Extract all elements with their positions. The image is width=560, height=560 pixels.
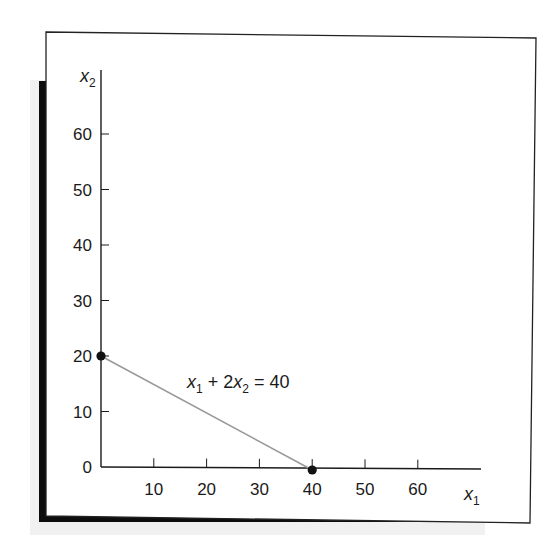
frame-shadow-left — [39, 81, 46, 522]
y-tick-label: 20 — [73, 347, 92, 366]
x-tick-label: 40 — [303, 480, 322, 499]
x-tick-label: 60 — [408, 480, 427, 499]
data-point-marker — [308, 465, 317, 474]
y-tick-label: 60 — [73, 125, 92, 144]
data-point-marker — [96, 351, 105, 360]
x-tick-label: 50 — [356, 480, 375, 499]
x-tick-label: 30 — [250, 480, 269, 499]
y-tick-label: 30 — [73, 292, 92, 311]
y-tick-label: 10 — [73, 403, 92, 422]
x-tick-label: 20 — [197, 480, 216, 499]
x-tick-label: 10 — [144, 480, 163, 499]
y-tick-label: 50 — [73, 181, 92, 200]
y-tick-label: 40 — [73, 236, 92, 255]
figure-frame — [46, 32, 536, 523]
chart-canvas: 0102030405060102030405060x1x2x1 + 2x2 = … — [0, 0, 560, 560]
shadow-halo-bottom — [30, 521, 485, 535]
figure: 0102030405060102030405060x1x2x1 + 2x2 = … — [0, 0, 560, 560]
y-tick-label: 0 — [83, 458, 92, 477]
